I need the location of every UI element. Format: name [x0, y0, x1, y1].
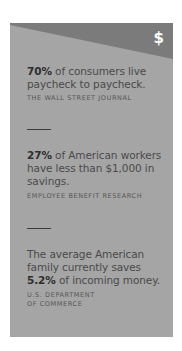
header-band	[10, 23, 173, 59]
divider-1	[27, 129, 51, 130]
fact-1-source: The Wall Street Journal	[27, 94, 167, 103]
dollar-icon: $	[154, 29, 164, 47]
fact-3-lead: The average American family currently sa…	[27, 248, 144, 273]
fact-2-highlight: 27%	[27, 149, 52, 161]
fact-3-source: U.S. Department of Commerce	[27, 291, 167, 309]
fact-3-highlight: 5.2%	[27, 274, 56, 286]
fact-1-text: 70% of consumers live paycheck to payche…	[27, 65, 167, 91]
fact-3-source-line-2: of Commerce	[27, 300, 167, 309]
divider-2	[27, 228, 51, 229]
fact-3-text: The average American family currently sa…	[27, 248, 167, 287]
fact-3-body: of incoming money.	[56, 274, 160, 286]
savings-stats-card: $ 70% of consumers live paycheck to payc…	[10, 23, 173, 337]
fact-2-source: Employee Benefit Research	[27, 192, 167, 201]
fact-1-highlight: 70%	[27, 65, 52, 77]
fact-3-source-line-1: U.S. Department	[27, 291, 167, 300]
fact-2-text: 27% of American workers have less than $…	[27, 149, 167, 188]
